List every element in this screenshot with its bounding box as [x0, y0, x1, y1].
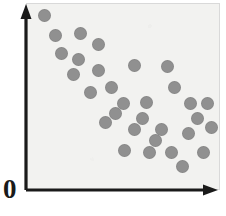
- data-point: [74, 27, 87, 40]
- origin-zero-label: 0: [3, 176, 17, 203]
- data-point: [128, 59, 141, 72]
- data-point: [92, 38, 105, 51]
- data-point: [118, 144, 131, 157]
- scatter-plot-figure: 0: [0, 0, 226, 216]
- data-point: [205, 121, 218, 134]
- data-point: [92, 64, 105, 77]
- data-point: [140, 96, 153, 109]
- data-point: [182, 127, 195, 140]
- plot-panel: [26, 3, 220, 190]
- data-point: [84, 86, 97, 99]
- data-point: [161, 60, 174, 73]
- data-point: [105, 81, 118, 94]
- data-point: [38, 9, 51, 22]
- data-point: [184, 97, 197, 110]
- data-point: [136, 112, 149, 125]
- data-point: [201, 97, 214, 110]
- data-point: [128, 123, 141, 136]
- data-point: [72, 53, 85, 66]
- data-point: [165, 146, 178, 159]
- data-point: [49, 29, 62, 42]
- data-point: [176, 160, 189, 173]
- data-point: [55, 47, 68, 60]
- data-point: [149, 134, 162, 147]
- data-point-layer: [27, 4, 219, 189]
- data-point: [109, 107, 122, 120]
- data-point: [143, 146, 156, 159]
- data-point: [67, 68, 80, 81]
- data-point: [191, 112, 204, 125]
- data-point: [168, 81, 181, 94]
- data-point: [197, 146, 210, 159]
